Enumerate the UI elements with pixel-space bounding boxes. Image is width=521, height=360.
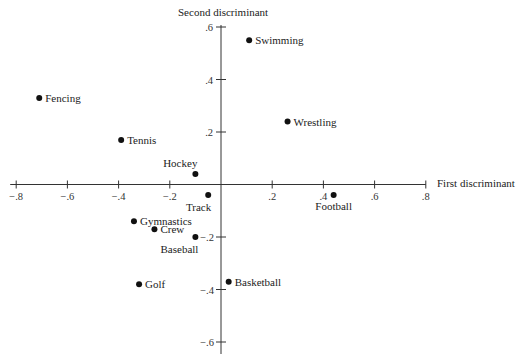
data-point-golf: Golf — [136, 278, 166, 290]
scatter-plot: −.8−.6−.4−.2.2.4.6.8.6.4.2−.2−.4−.6 Swim… — [0, 0, 521, 360]
y-tick-label: .4 — [205, 75, 214, 86]
point-marker — [226, 279, 232, 285]
x-tick-label: .8 — [422, 191, 430, 202]
data-point-hockey: Hockey — [163, 157, 198, 177]
point-marker — [192, 171, 198, 177]
point-marker — [136, 281, 142, 287]
y-tick-label: −.2 — [200, 232, 214, 243]
data-point-basketball: Basketball — [226, 276, 281, 288]
point-label: Crew — [160, 223, 184, 235]
y-tick-label: .6 — [205, 22, 213, 33]
y-axis-label: Second discriminant — [178, 6, 268, 18]
data-point-track: Track — [186, 192, 212, 213]
data-point-baseball: Baseball — [161, 234, 199, 255]
data-points: SwimmingFencingWrestlingTennisHockeyTrac… — [36, 34, 352, 290]
axes: −.8−.6−.4−.2.2.4.6.8.6.4.2−.2−.4−.6 — [9, 22, 429, 354]
point-label: Track — [186, 201, 212, 213]
point-label: Fencing — [45, 92, 81, 104]
y-tick-label: −.4 — [200, 285, 215, 296]
x-tick-label: −.4 — [112, 191, 127, 202]
point-label: Wrestling — [294, 116, 337, 128]
point-marker — [205, 192, 211, 198]
point-marker — [151, 226, 157, 232]
point-label: Hockey — [163, 157, 198, 169]
x-tick-label: .2 — [268, 191, 276, 202]
y-tick-label: .2 — [205, 127, 213, 138]
point-label: Football — [315, 200, 352, 212]
point-marker — [192, 234, 198, 240]
point-marker — [118, 137, 124, 143]
data-point-fencing: Fencing — [36, 92, 81, 104]
x-tick-label: −.2 — [163, 191, 177, 202]
point-marker — [246, 37, 252, 43]
point-label: Basketball — [235, 276, 281, 288]
point-label: Tennis — [127, 134, 156, 146]
point-marker — [285, 119, 291, 125]
point-marker — [131, 218, 137, 224]
point-marker — [36, 95, 42, 101]
point-marker — [331, 192, 337, 198]
point-label: Baseball — [161, 243, 199, 255]
data-point-swimming: Swimming — [246, 34, 304, 46]
point-label: Golf — [145, 278, 166, 290]
point-label: Swimming — [255, 34, 304, 46]
x-tick-label: −.6 — [61, 191, 75, 202]
x-tick-label: −.8 — [9, 191, 23, 202]
x-tick-label: .6 — [371, 191, 379, 202]
y-tick-label: −.6 — [200, 337, 214, 348]
data-point-tennis: Tennis — [118, 134, 156, 146]
data-point-wrestling: Wrestling — [285, 116, 337, 128]
x-axis-label: First discriminant — [437, 177, 515, 189]
